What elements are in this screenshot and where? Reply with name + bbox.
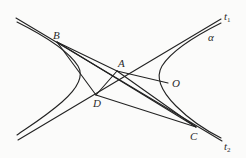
- segment-BA: [57, 42, 117, 71]
- label-t1: t1: [224, 10, 231, 24]
- label-B: B: [53, 29, 60, 41]
- label-O: O: [172, 77, 180, 89]
- segment-AC: [117, 71, 196, 127]
- label-t2: t2: [224, 140, 231, 154]
- label-A: A: [117, 57, 125, 69]
- segment-BD: [57, 42, 96, 95]
- label-alpha: α: [208, 31, 214, 43]
- hyperbola-left-branch: [17, 22, 80, 135]
- label-C: C: [190, 130, 198, 142]
- hyperbola-diagram: B A D C O α t1 t2: [0, 0, 246, 158]
- diagram-canvas: B A D C O α t1 t2: [0, 0, 246, 158]
- label-D: D: [92, 97, 101, 109]
